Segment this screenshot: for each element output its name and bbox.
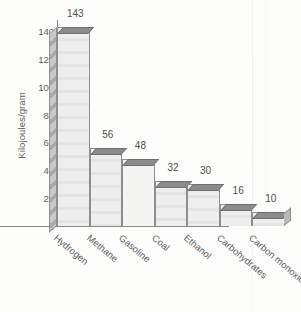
chart-figure: Kilojoules/gram 020406080100120140 Hydro… bbox=[0, 0, 301, 312]
bar-carbohydrates bbox=[220, 204, 253, 226]
bar-carbon-monoxide bbox=[252, 212, 285, 226]
bar-hydrogen bbox=[57, 27, 90, 226]
bar-value-label-hydrogen: 143 bbox=[67, 8, 84, 19]
bar-top-face bbox=[220, 204, 257, 211]
bar-left-face-hydrogen bbox=[49, 27, 57, 233]
bar-top-face bbox=[122, 159, 159, 166]
category-label-ethanol: Ethanol bbox=[182, 232, 214, 261]
bar-methane bbox=[90, 148, 123, 226]
x-axis-category-labels: HydrogenMethaneGasolineCoalEthanolCarboh… bbox=[0, 0, 301, 312]
category-label-hydrogen: Hydrogen bbox=[52, 232, 91, 267]
bar-ethanol bbox=[187, 184, 220, 226]
bar-value-label-methane: 56 bbox=[102, 129, 113, 140]
bar-top-face bbox=[155, 181, 192, 188]
bar-value-label-carbon-monoxide: 10 bbox=[265, 193, 276, 204]
bar-top-face bbox=[57, 27, 94, 34]
bar-top-face bbox=[90, 148, 127, 155]
bar-gasoline bbox=[122, 159, 155, 226]
bar-top-face bbox=[187, 184, 224, 191]
category-label-gasoline: Gasoline bbox=[117, 232, 153, 265]
bar-value-label-ethanol: 30 bbox=[200, 165, 211, 176]
bar-value-label-gasoline: 48 bbox=[135, 140, 146, 151]
bar-coal bbox=[155, 181, 188, 226]
bar-value-label-coal: 32 bbox=[167, 162, 178, 173]
category-label-coal: Coal bbox=[150, 232, 172, 253]
bar-value-label-carbohydrates: 16 bbox=[233, 185, 244, 196]
